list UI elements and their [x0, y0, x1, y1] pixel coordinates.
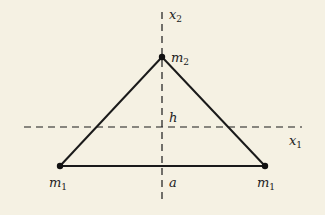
mass-right-point — [262, 163, 268, 169]
half-base-label: a — [169, 175, 177, 190]
triangle-left-side — [60, 57, 162, 166]
mass-right-label: m1 — [257, 175, 275, 192]
triangle-diagram: x2 x1 m2 m1 m1 h a — [0, 0, 325, 215]
x1-axis-label: x1 — [289, 133, 302, 150]
mass-left-label: m1 — [49, 175, 67, 192]
mass-left-point — [57, 163, 63, 169]
mass-top-point — [159, 54, 165, 60]
mass-top-label: m2 — [171, 50, 189, 67]
height-label: h — [169, 110, 177, 125]
triangle-right-side — [162, 57, 265, 166]
x2-axis-label: x2 — [169, 7, 182, 24]
diagram-canvas: x2 x1 m2 m1 m1 h a — [0, 0, 325, 215]
